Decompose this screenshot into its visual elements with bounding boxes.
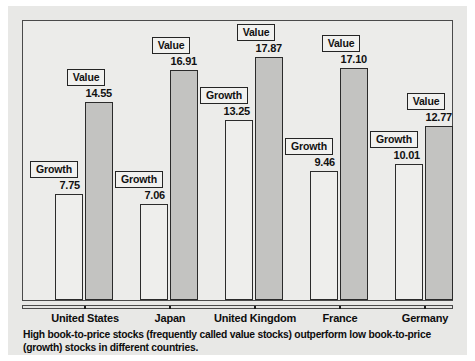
callout-growth-france: Growth 9.46 [278,136,340,169]
bar-value-france [340,68,368,300]
bar-growth-united-states [55,194,83,300]
axis-tick [424,306,426,309]
callout-growth-united-kingdom: Growth 13.25 [193,85,255,118]
value-growth-united-kingdom: 13.25 [193,105,255,118]
bar-value-united-kingdom [255,57,283,300]
value-value-germany: 12.77 [395,111,457,124]
tag-value: Value [152,37,191,54]
axis-tick [84,306,86,309]
tag-value: Value [67,69,106,86]
bar-value-japan [170,70,198,300]
callout-growth-united-states: Growth 7.75 [23,159,85,192]
tag-growth: Growth [115,171,163,188]
bar-value-germany [425,126,453,300]
axis-tick [169,306,171,309]
tag-growth: Growth [200,87,248,104]
bar-growth-japan [140,204,168,300]
value-growth-japan: 7.06 [108,189,170,202]
callout-value-united-kingdom: Value 17.87 [225,22,287,55]
tag-growth: Growth [285,138,333,155]
x-axis-line [22,305,453,309]
value-value-france: 17.10 [310,53,372,66]
callout-value-united-states: Value 14.55 [55,67,117,100]
value-growth-united-states: 7.75 [23,179,85,192]
bar-growth-united-kingdom [225,120,253,300]
value-growth-germany: 10.01 [363,149,425,162]
tag-value: Value [407,93,446,110]
callout-value-japan: Value 16.91 [140,35,202,68]
value-value-united-states: 14.55 [55,87,117,100]
callout-value-germany: Value 12.77 [395,91,457,124]
tag-value: Value [322,35,361,52]
figure-caption: High book-to-price stocks (frequently ca… [23,328,455,354]
callout-value-france: Value 17.10 [310,33,372,66]
tag-growth: Growth [30,161,78,178]
figure-card: Growth 7.75 Value 14.55 Growth 7.06 Valu… [8,6,467,355]
plot-area: Growth 7.75 Value 14.55 Growth 7.06 Valu… [23,21,452,300]
bar-growth-germany [395,164,423,300]
axis-label-germany: Germany [365,312,475,324]
tag-value: Value [237,24,276,41]
callout-growth-germany: Growth 10.01 [363,129,425,162]
bar-growth-france [310,171,338,300]
axis-tick [254,306,256,309]
value-growth-france: 9.46 [278,156,340,169]
callout-growth-japan: Growth 7.06 [108,169,170,202]
bar-value-united-states [85,102,113,300]
tag-growth: Growth [370,131,418,148]
axis-tick [339,306,341,309]
value-value-united-kingdom: 17.87 [225,42,287,55]
value-value-japan: 16.91 [140,55,202,68]
